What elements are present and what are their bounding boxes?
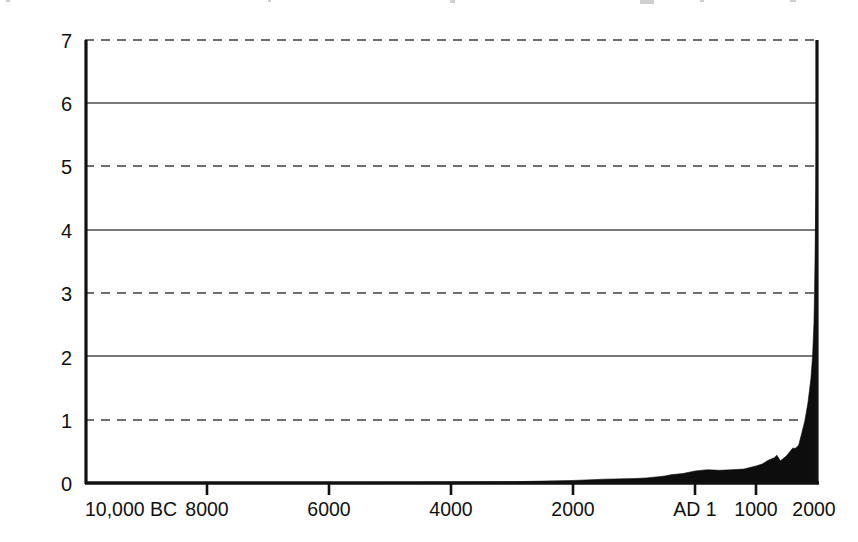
x-tick-label-ad1000: 1000 [734,500,777,520]
axis-spines [85,40,819,484]
x-axis-ticks [207,483,756,495]
x-tick-label-2000: 2000 [551,500,594,520]
plot-area [0,0,858,542]
world-population-chart-figure: World population, billions 7 6 5 4 3 2 1… [0,0,858,542]
x-tick-label-6000: 6000 [307,500,350,520]
x-tick-label-ad1: AD 1 [673,500,716,520]
population-area-fill [86,98,817,483]
x-tick-label-8000: 8000 [185,500,228,520]
x-tick-label-4000: 4000 [429,500,472,520]
gridlines [85,40,818,420]
x-tick-label-10000bc: 10,000 BC [85,500,177,520]
x-tick-label-ad2000: 2000 [792,500,835,520]
